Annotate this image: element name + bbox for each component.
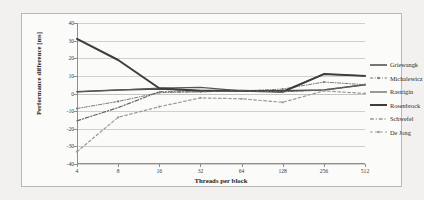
x-tick-mark — [242, 164, 243, 167]
legend-item[interactable]: Griewangk — [370, 58, 424, 72]
legend-item[interactable]: De Jong — [370, 126, 424, 140]
chart-figure: Performance difference [ms] 403020100-10… — [21, 13, 402, 187]
legend-swatch-icon — [370, 61, 387, 69]
legend-label: Schwefel — [390, 115, 413, 122]
x-tick-label: 4 — [76, 168, 79, 174]
x-tick-label: 256 — [320, 168, 328, 174]
legend-swatch-icon — [370, 101, 387, 109]
legend-item[interactable]: Rastrigin — [370, 85, 424, 99]
y-axis-title: Performance difference [ms] — [35, 14, 42, 134]
x-tick-label: 128 — [279, 168, 287, 174]
x-tick-label: 32 — [198, 168, 204, 174]
x-tick-label: 16 — [156, 168, 162, 174]
legend-label: De Jong — [390, 129, 411, 136]
plot-area: 403020100-10-20-30-40 48163264128256512 — [77, 23, 365, 164]
x-tick-mark — [77, 164, 78, 167]
gridline — [77, 164, 365, 165]
x-axis-title: Threads per block — [77, 177, 365, 184]
y-tick-label: -10 — [67, 108, 74, 114]
x-tick-mark — [324, 164, 325, 167]
series-marker — [282, 88, 284, 90]
series-line — [77, 74, 365, 92]
legend-label: Griewangk — [390, 61, 418, 68]
legend-item[interactable]: Schwefel — [370, 112, 424, 126]
chart-legend: GriewangkMichalewiczRastriginRosenbrockS… — [370, 58, 424, 139]
legend-swatch-icon — [370, 88, 387, 96]
series-marker — [76, 107, 78, 109]
series-line — [77, 39, 365, 92]
series-marker — [117, 116, 119, 118]
series-marker — [323, 81, 325, 83]
series-marker — [117, 100, 119, 102]
x-tick-mark — [118, 164, 119, 167]
legend-swatch-icon — [370, 128, 387, 136]
data-series-layer — [77, 23, 365, 164]
legend-label: Rosenbrock — [390, 102, 420, 109]
legend-label: Rastrigin — [390, 88, 413, 95]
legend-item[interactable]: Michalewicz — [370, 72, 424, 86]
series-marker — [240, 98, 242, 100]
x-tick-mark — [200, 164, 201, 167]
x-tick-label: 64 — [239, 168, 245, 174]
y-tick-label: -40 — [67, 161, 74, 167]
plot-wrapper: Performance difference [ms] 403020100-10… — [22, 14, 401, 186]
x-tick-label: 8 — [117, 168, 120, 174]
series-marker — [364, 92, 366, 94]
series-line — [77, 82, 365, 108]
series-marker — [158, 106, 160, 108]
legend-label: Michalewicz — [390, 75, 423, 82]
x-tick-mark — [365, 164, 366, 167]
legend-item[interactable]: Rosenbrock — [370, 99, 424, 113]
x-tick-mark — [283, 164, 284, 167]
series-marker — [76, 151, 78, 153]
series-marker — [282, 101, 284, 103]
legend-swatch-icon — [370, 74, 387, 82]
x-tick-mark — [159, 164, 160, 167]
y-tick-label: -30 — [67, 143, 74, 149]
legend-swatch-icon — [370, 115, 387, 123]
x-tick-label: 512 — [361, 168, 369, 174]
series-marker — [199, 97, 201, 99]
series-line — [77, 91, 365, 152]
y-tick-label: -20 — [67, 126, 74, 132]
series-marker — [323, 90, 325, 92]
